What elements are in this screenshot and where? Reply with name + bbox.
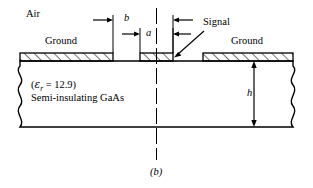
permittivity-annotation: (εr = 12.9): [31, 79, 76, 93]
signal-label: Signal: [203, 17, 230, 28]
cpw-cross-section-figure: Air Ground Ground Signal b a h (εr = 12.…: [0, 0, 313, 188]
substrate-material-label: Semi-insulating GaAs: [31, 93, 124, 104]
figure-caption: (b): [150, 167, 162, 178]
dimension-a-label: a: [146, 28, 151, 39]
ground-right-label: Ground: [231, 36, 263, 47]
ground-left-label: Ground: [45, 36, 77, 47]
ground-conductor-right: [203, 53, 293, 61]
ground-conductor-left: [20, 53, 113, 61]
air-region-label: Air: [26, 9, 40, 20]
dimension-b-label: b: [124, 13, 129, 24]
dim-a-arrow-left: [122, 31, 140, 36]
permittivity-close-paren: ): [73, 79, 77, 90]
permittivity-equals: =: [43, 79, 54, 90]
dim-a-arrow-right: [173, 31, 191, 36]
dim-b-arrow-left: [93, 17, 113, 22]
dim-b-arrow-right: [173, 17, 193, 22]
dimension-h-label: h: [247, 88, 252, 99]
permittivity-value: 12.9: [54, 79, 72, 90]
